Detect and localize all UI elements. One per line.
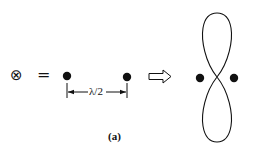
dimension-arrowhead-left-icon: [68, 90, 74, 94]
pattern-dot-left: [196, 74, 204, 82]
equals-sign: =: [37, 65, 50, 84]
figure-eight-pattern: [203, 13, 232, 142]
otimes-symbol: ⊗: [10, 66, 23, 84]
pattern-dot-right: [230, 74, 238, 82]
figure-caption: (a): [108, 130, 121, 142]
source-dot-left: [63, 72, 71, 80]
spacing-label: λ/2: [88, 85, 104, 97]
source-dot-right: [123, 73, 131, 81]
hollow-arrow-icon: [149, 70, 171, 83]
dimension-arrowhead-right-icon: [120, 90, 126, 94]
